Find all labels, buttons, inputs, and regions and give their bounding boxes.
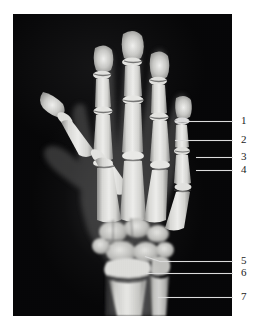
leader-line-5 — [160, 261, 233, 262]
radiograph-figure: 1 2 3 4 5 6 7 — [0, 0, 264, 330]
annotation-label-5: 5 — [241, 255, 247, 266]
annotation-label-6: 6 — [241, 267, 247, 278]
leader-line-3 — [196, 157, 233, 158]
leader-line-4 — [196, 170, 233, 171]
film-grain-overlay — [13, 14, 232, 316]
leader-line-2 — [175, 140, 233, 141]
annotation-label-1: 1 — [241, 115, 247, 126]
leader-line-7 — [158, 297, 233, 298]
annotation-label-4: 4 — [241, 164, 247, 175]
xray-image-panel — [13, 14, 232, 316]
annotation-label-3: 3 — [241, 151, 247, 162]
leader-line-1 — [175, 121, 233, 122]
annotation-label-7: 7 — [241, 291, 247, 302]
annotation-label-2: 2 — [241, 134, 247, 145]
leader-line-6 — [146, 273, 233, 274]
